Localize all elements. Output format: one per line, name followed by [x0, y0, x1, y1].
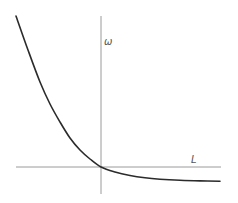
y-axis-label: ω	[104, 37, 112, 47]
plot-area	[0, 0, 238, 203]
curve-omega-of-L	[16, 16, 220, 181]
x-axis-label: L	[191, 155, 197, 165]
